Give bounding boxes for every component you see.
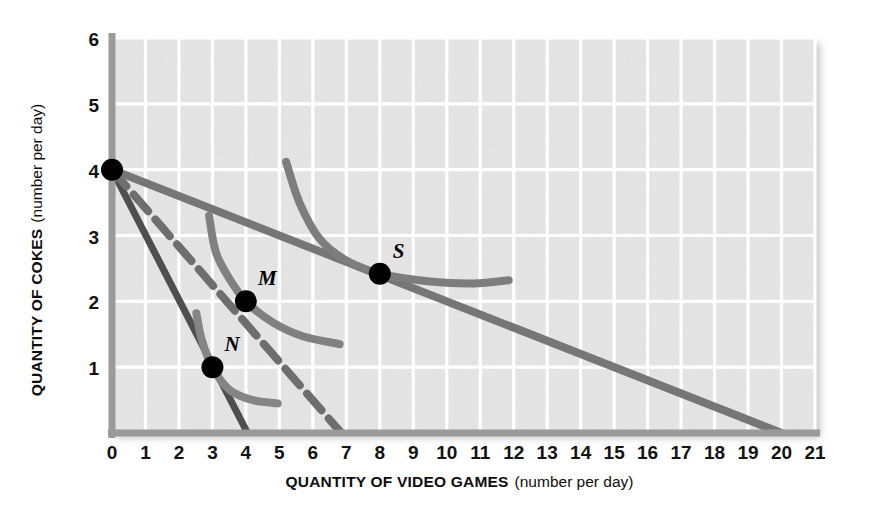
x-tick-label: 20 [771,442,792,463]
x-tick-label: 9 [408,442,419,463]
y-tick-label: 1 [88,358,99,379]
x-tick-label: 8 [375,442,386,463]
x-tick-label: 18 [704,442,725,463]
x-tick-label: 10 [436,442,457,463]
x-tick-label: 21 [804,442,826,463]
x-tick-label: 15 [604,442,626,463]
y-tick-label: 6 [88,29,99,50]
x-axis-title-main: QUANTITY OF VIDEO GAMES [286,473,509,490]
y-axis-title: QUANTITY OF COKES (number per day) [28,104,45,397]
x-tick-label: 16 [637,442,658,463]
chart-canvas: NMS 0123456789101112131415161718192021 1… [0,0,878,509]
point-S-label: S [393,239,405,263]
y-tick-label: 2 [88,292,99,313]
point-N-label: N [223,332,240,356]
indifference-curve-figure: NMS 0123456789101112131415161718192021 1… [0,0,878,509]
x-tick-label: 11 [470,442,491,463]
x-tick-label: 4 [241,442,252,463]
x-tick-label: 6 [308,442,319,463]
x-axis-title-sub: (number per day) [515,473,634,490]
origin-bundle-point [101,159,123,181]
x-tick-label: 17 [671,442,692,463]
y-tick-label: 5 [88,95,99,116]
point-M [235,290,257,312]
x-tick-label: 5 [274,442,285,463]
x-tick-label: 1 [140,442,151,463]
y-tick-label: 4 [88,161,99,182]
x-tick-label: 13 [537,442,558,463]
x-tick-label: 3 [207,442,218,463]
y-axis-title-main: QUANTITY OF COKES [28,229,45,397]
x-tick-label: 12 [503,442,524,463]
x-tick-label: 2 [174,442,185,463]
x-tick-label: 7 [341,442,352,463]
y-tick-label: 3 [88,227,99,248]
x-tick-label: 0 [107,442,118,463]
point-M-label: M [257,266,278,290]
point-S [369,263,391,285]
x-axis-title: QUANTITY OF VIDEO GAMES (number per day) [286,473,634,490]
x-tick-label: 19 [737,442,758,463]
y-axis-title-sub: (number per day) [28,104,45,223]
point-N [201,356,223,378]
x-tick-label: 14 [570,442,592,463]
